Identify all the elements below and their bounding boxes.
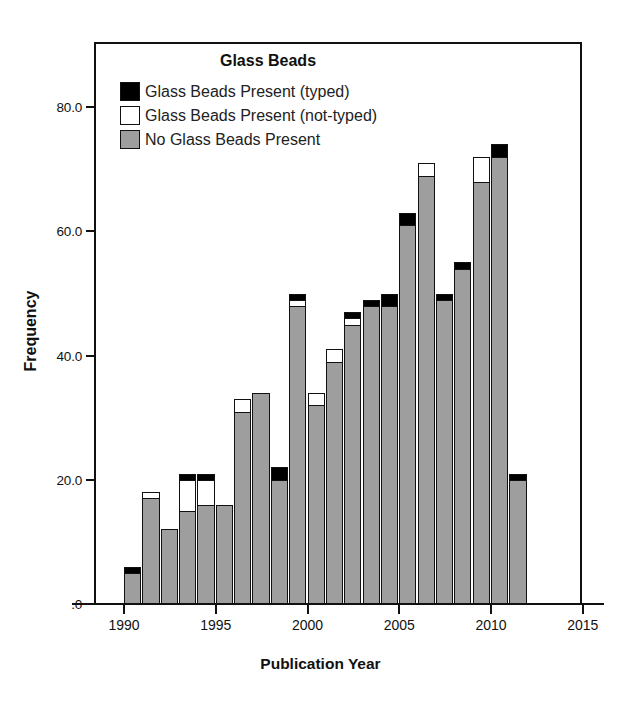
- bar-segment-no-beads: [289, 306, 306, 604]
- y-axis-tick-label: 20.0: [57, 472, 82, 487]
- bar-2010: [491, 144, 508, 604]
- bar-segment-no-beads: [124, 573, 141, 604]
- bar-segment-no-beads: [473, 182, 490, 604]
- bar-2003: [363, 300, 380, 604]
- bar-segment-no-beads: [326, 362, 343, 604]
- x-axis-tick-label: 2000: [292, 617, 323, 633]
- x-axis-tick-label: 2015: [567, 617, 598, 633]
- bar-segment-no-beads: [161, 529, 178, 604]
- bar-1997: [252, 393, 269, 604]
- bar-segment-not-typed: [344, 318, 361, 324]
- bar-segment-no-beads: [271, 480, 288, 604]
- y-axis-tick-label: 40.0: [57, 348, 82, 363]
- x-axis-tick: [215, 604, 217, 614]
- x-axis-tick-label: 2005: [384, 617, 415, 633]
- bar-segment-no-beads: [436, 300, 453, 604]
- bar-segment-typed: [454, 262, 471, 268]
- bar-segment-no-beads: [308, 405, 325, 604]
- bar-segment-no-beads: [399, 225, 416, 604]
- legend-swatch-icon: [120, 82, 140, 101]
- bar-2008: [454, 262, 471, 604]
- bar-segment-typed: [271, 467, 288, 479]
- bar-segment-not-typed: [197, 480, 214, 505]
- bar-2007: [436, 294, 453, 605]
- bar-1996: [234, 399, 251, 604]
- bar-1991: [142, 492, 159, 604]
- bar-1993: [179, 474, 196, 604]
- legend-item-label: No Glass Beads Present: [145, 132, 320, 148]
- bar-2004: [381, 294, 398, 605]
- bar-segment-not-typed: [179, 480, 196, 511]
- x-axis-tick: [582, 604, 584, 614]
- bar-segment-typed: [363, 300, 380, 306]
- x-axis-tick-label: 1995: [200, 617, 231, 633]
- y-axis-tick: [86, 106, 95, 108]
- y-axis-tick-label: .0: [71, 597, 82, 612]
- bar-2009: [473, 157, 490, 604]
- bar-2011: [509, 474, 526, 604]
- bar-1999: [289, 294, 306, 605]
- legend-items: Glass Beads Present (typed)Glass Beads P…: [120, 80, 440, 151]
- bar-segment-no-beads: [418, 176, 435, 604]
- bar-1995: [216, 505, 233, 604]
- bar-segment-typed: [436, 294, 453, 300]
- bar-segment-not-typed: [473, 157, 490, 182]
- bar-segment-no-beads: [179, 511, 196, 604]
- x-axis-tick: [123, 604, 125, 614]
- bar-segment-no-beads: [509, 480, 526, 604]
- bar-segment-typed: [289, 294, 306, 300]
- bar-segment-no-beads: [197, 505, 214, 604]
- bar-2000: [308, 393, 325, 604]
- bar-segment-no-beads: [252, 393, 269, 604]
- legend-title: Glass Beads: [138, 52, 398, 70]
- bar-segment-typed: [179, 474, 196, 480]
- bar-1998: [271, 467, 288, 604]
- x-axis-title: Publication Year: [0, 655, 641, 673]
- legend-swatch-icon: [120, 130, 140, 149]
- x-axis-tick-label: 2010: [475, 617, 506, 633]
- legend-item-label: Glass Beads Present (typed): [145, 84, 350, 100]
- bar-2006: [418, 163, 435, 604]
- y-axis-title: Frequency: [22, 236, 40, 426]
- x-axis-line: [72, 603, 604, 605]
- bar-segment-typed: [491, 144, 508, 156]
- bar-segment-no-beads: [454, 269, 471, 604]
- y-axis-tick: [86, 230, 95, 232]
- bar-1990: [124, 567, 141, 604]
- legend-item-label: Glass Beads Present (not-typed): [145, 108, 377, 124]
- bar-segment-no-beads: [344, 325, 361, 604]
- bar-2001: [326, 349, 343, 604]
- bar-segment-typed: [509, 474, 526, 480]
- x-axis-tick: [398, 604, 400, 614]
- bar-segment-no-beads: [491, 157, 508, 604]
- bar-segment-no-beads: [142, 498, 159, 604]
- bar-segment-not-typed: [418, 163, 435, 175]
- bar-segment-typed: [344, 312, 361, 318]
- legend-item: Glass Beads Present (not-typed): [120, 104, 440, 127]
- x-axis-tick: [307, 604, 309, 614]
- bar-1992: [161, 529, 178, 604]
- bar-2005: [399, 213, 416, 604]
- legend-swatch-icon: [120, 106, 140, 125]
- y-axis-tick: [86, 603, 95, 605]
- y-axis-tick: [86, 479, 95, 481]
- bar-segment-no-beads: [216, 505, 233, 604]
- bar-1994: [197, 474, 214, 604]
- bar-segment-typed: [381, 294, 398, 306]
- bar-segment-no-beads: [363, 306, 380, 604]
- bar-segment-not-typed: [142, 492, 159, 498]
- bar-segment-not-typed: [289, 300, 306, 306]
- x-axis-tick: [490, 604, 492, 614]
- legend: Glass Beads Glass Beads Present (typed)G…: [120, 52, 440, 152]
- y-axis-tick: [86, 355, 95, 357]
- bar-2002: [344, 312, 361, 604]
- legend-item: Glass Beads Present (typed): [120, 80, 440, 103]
- bar-segment-not-typed: [308, 393, 325, 405]
- bar-segment-no-beads: [381, 306, 398, 604]
- bar-segment-no-beads: [234, 412, 251, 605]
- legend-item: No Glass Beads Present: [120, 128, 440, 151]
- y-axis-tick-label: 80.0: [57, 100, 82, 115]
- y-axis-tick-label: 60.0: [57, 224, 82, 239]
- x-axis-tick-label: 1990: [108, 617, 139, 633]
- bar-segment-typed: [399, 213, 416, 225]
